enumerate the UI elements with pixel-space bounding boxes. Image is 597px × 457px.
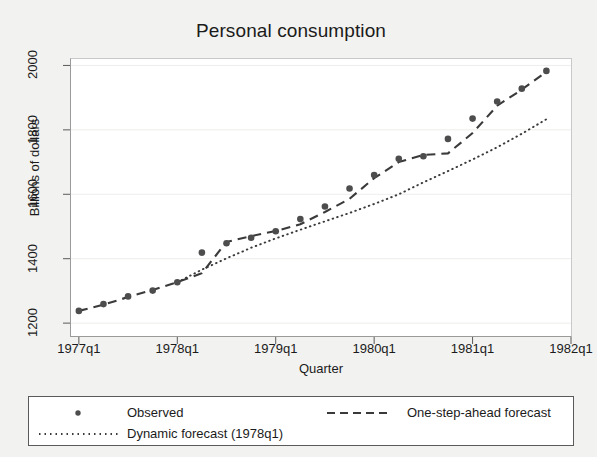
data-point <box>322 203 329 210</box>
data-point <box>100 301 107 308</box>
data-point <box>248 234 255 241</box>
data-point <box>272 228 279 235</box>
y-tick-label: 1200 <box>25 301 40 345</box>
y-tick-label: 1600 <box>25 172 40 216</box>
data-point <box>445 136 452 143</box>
data-point <box>76 308 83 315</box>
data-point <box>223 240 230 247</box>
data-point <box>346 185 353 192</box>
data-point <box>518 85 525 92</box>
legend-key-one-step-ahead-line <box>323 405 393 421</box>
legend-label-one-step-ahead: One-step-ahead forecast <box>407 405 551 420</box>
y-tick-label: 2000 <box>25 43 40 87</box>
data-point <box>199 249 206 256</box>
x-tick-label: 1982q1 <box>536 341 597 356</box>
plot-area <box>70 58 572 337</box>
x-axis-label: Quarter <box>70 361 572 376</box>
data-point <box>395 156 402 163</box>
x-tick-label: 1981q1 <box>438 341 508 356</box>
x-tick-label: 1977q1 <box>44 341 114 356</box>
y-tick-label: 1800 <box>25 107 40 151</box>
chart-title: Personal consumption <box>0 20 582 42</box>
series-one-step-ahead-forecast <box>79 72 547 311</box>
data-point <box>297 216 304 223</box>
data-point <box>494 98 501 105</box>
data-point <box>420 153 427 160</box>
legend-key-observed-marker <box>43 405 113 421</box>
legend-label-observed: Observed <box>127 405 183 420</box>
series-dynamic-forecast <box>177 119 546 282</box>
data-point <box>371 172 378 179</box>
data-point <box>149 287 156 294</box>
data-point <box>174 279 181 286</box>
y-tick-label: 1400 <box>25 236 40 280</box>
data-point <box>543 68 550 75</box>
legend-key-dynamic-line <box>37 426 121 442</box>
x-tick-label: 1979q1 <box>241 341 311 356</box>
plot-canvas <box>71 59 571 336</box>
data-point <box>125 293 132 300</box>
x-tick-label: 1978q1 <box>142 341 212 356</box>
x-tick-label: 1980q1 <box>339 341 409 356</box>
legend-label-dynamic: Dynamic forecast (1978q1) <box>127 426 283 441</box>
series-observed <box>76 68 550 315</box>
data-point <box>469 115 476 122</box>
chart-legend: Observed One-step-ahead forecast Dynamic… <box>28 396 574 446</box>
